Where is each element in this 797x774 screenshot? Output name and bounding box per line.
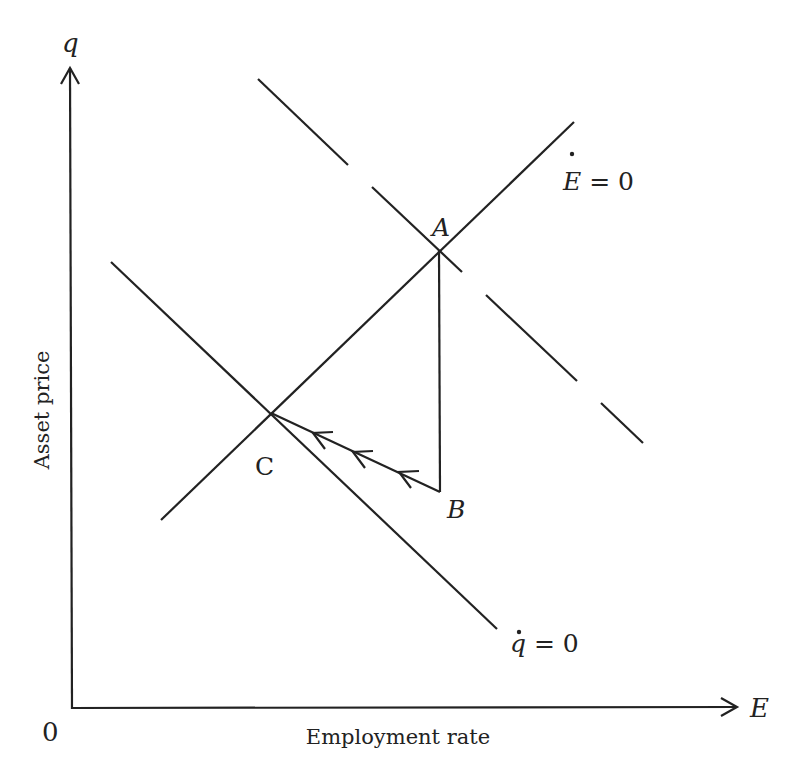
q-dot-zero-dashed-curve [258,79,643,443]
path-a-to-b [439,250,440,492]
path-b-to-c [271,413,440,492]
svg-text:E = 0: E = 0 [562,167,634,196]
point-label-c: C [255,452,274,481]
e-dot-zero-label: E = 0 [562,152,634,196]
y-axis-label: Asset price [30,351,54,471]
x-axis-symbol: E [749,693,769,723]
point-label-b: B [446,495,465,524]
y-axis-symbol: q [62,28,79,58]
origin-label: 0 [42,717,59,747]
dot-accent-icon [570,152,574,156]
x-axis-label: Employment rate [306,725,490,749]
svg-text:q = 0: q = 0 [510,629,579,658]
phase-diagram: q Asset price E Employment rate 0 E = 0 … [0,0,797,774]
x-axis [71,698,737,716]
q-dot-zero-label: q = 0 [510,629,579,658]
point-label-a: A [430,213,450,242]
y-axis [61,68,79,709]
